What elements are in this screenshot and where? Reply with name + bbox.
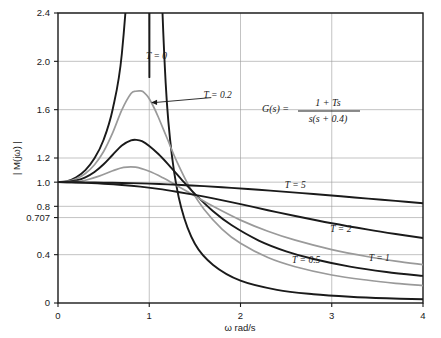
y-tick-label: 0 (45, 297, 50, 308)
curve-label-t-5: T = 5 (285, 180, 306, 190)
formula-lhs: G(s) = (262, 103, 289, 115)
x-tick-label: 4 (420, 310, 425, 321)
y-tick-label: 1.2 (37, 152, 50, 163)
x-tick-label: 2 (238, 310, 243, 321)
y-tick-label: 0.707 (26, 212, 50, 223)
formula-numerator: 1 + Ts (315, 97, 340, 108)
magnitude-frequency-response-figure: 01234 00.40.7070.81.01.21.62.02.4 T = 0T… (0, 0, 441, 338)
curve-label-t-0: T = 0 (146, 51, 167, 61)
y-tick-label: 1.0 (37, 177, 50, 188)
y-tick-label: 0.8 (37, 201, 50, 212)
x-tick-label: 1 (147, 310, 152, 321)
curve-label-t-0-5: T = 0.5 (292, 255, 320, 265)
x-tick-label: 3 (329, 310, 334, 321)
curve-label-t-2: T = 2 (330, 224, 351, 234)
y-tick-label: 0.4 (37, 249, 50, 260)
y-axis-title: | M(jω) | (11, 141, 22, 175)
y-tick-label: 2.0 (37, 56, 50, 67)
x-tick-label: 0 (55, 310, 60, 321)
curve-label-t-1: T = 1 (369, 253, 390, 263)
formula-denominator: s(s + 0.4) (309, 113, 348, 125)
chart-canvas: 01234 00.40.7070.81.01.21.62.02.4 T = 0T… (0, 0, 441, 338)
y-tick-label: 2.4 (37, 7, 50, 18)
figure-background (0, 0, 441, 338)
x-axis-title: ω rad/s (224, 322, 255, 333)
y-tick-label: 1.6 (37, 104, 50, 115)
